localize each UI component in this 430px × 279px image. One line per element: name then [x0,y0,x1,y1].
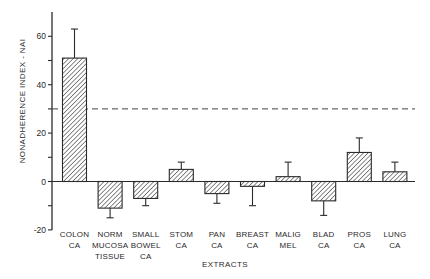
y-tick-label: 40 [37,80,47,90]
x-axis-labels: COLONCANORMMUCOSATISSUESMALLBOWELCASTOMC… [60,230,407,261]
x-category-label: SMALLBOWELCA [131,230,161,261]
y-tick-label: 20 [37,128,47,138]
x-category-label: LUNGCA [383,230,406,250]
bar [312,182,336,201]
chart-container: -200204060 COLONCANORMMUCOSATISSUESMALLB… [0,0,430,279]
x-category-label: MALIGMEL [275,230,301,250]
bar-group [63,29,87,181]
bar [169,169,193,181]
x-axis-title: EXTRACTS [202,260,248,269]
y-tick-label: 60 [37,31,47,41]
bar [63,58,87,181]
bar-group [312,182,336,216]
x-category-label: STOMCA [169,230,193,250]
x-category-label: PROSCA [348,230,371,250]
y-tick-label: -20 [34,225,47,235]
y-axis-title: NONADHERENCE INDEX - NAI [18,39,27,164]
bar-group [383,162,407,181]
bar [241,182,265,187]
x-category-label: NORMMUCOSATISSUE [92,230,129,261]
bar-chart: -200204060 COLONCANORMMUCOSATISSUESMALLB… [0,0,430,279]
bar-group [169,162,193,181]
bar-group [241,182,265,206]
y-axis: -200204060 [34,12,415,235]
bar [347,152,371,181]
bars [63,29,407,218]
bar [205,182,229,194]
bar-group [98,182,122,218]
bar-group [134,182,158,206]
bar-group [276,162,300,181]
bar [276,177,300,182]
x-category-label: BREASTCA [236,230,269,250]
x-category-label: PANCA [209,230,225,250]
x-category-label: BLADCA [313,230,335,250]
bar [383,172,407,182]
y-tick-label: 0 [41,177,46,187]
bar [98,182,122,209]
bar [134,182,158,199]
x-category-label: COLONCA [60,230,89,250]
bar-group [205,182,229,204]
bar-group [347,138,371,182]
